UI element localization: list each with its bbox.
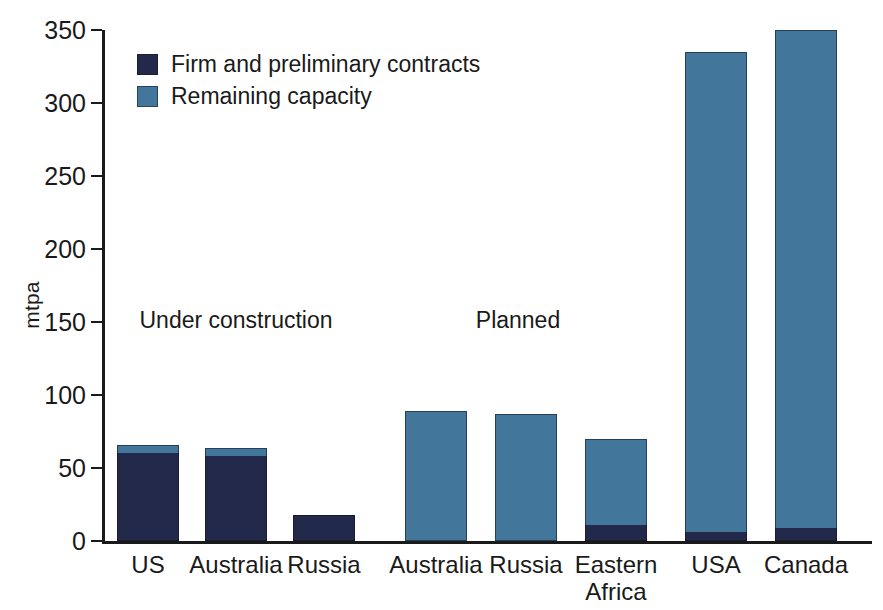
legend-item-remaining: Remaining capacity: [137, 82, 480, 111]
annotation-under-construction: Under construction: [139, 307, 332, 334]
y-tick-mark: [91, 467, 102, 469]
bar-segment-remaining-capacity: [405, 411, 467, 541]
bar-segment-remaining-capacity: [775, 30, 837, 528]
y-axis-label: mtpa: [20, 281, 44, 329]
legend-item-firm: Firm and preliminary contracts: [137, 50, 480, 79]
x-tick-label: Eastern Africa: [559, 551, 673, 605]
legend-label-remaining: Remaining capacity: [171, 83, 372, 110]
legend-label-firm: Firm and preliminary contracts: [171, 51, 480, 78]
bar-segment-firm-contracts: [117, 453, 179, 541]
y-tick-label: 300: [44, 89, 86, 118]
x-tick-label: Russia: [267, 551, 381, 578]
firm-swatch-icon: [137, 54, 158, 75]
bar-segment-remaining-capacity: [585, 439, 647, 525]
bar-segment-firm-contracts: [775, 528, 837, 541]
bar-segment-remaining-capacity: [205, 448, 267, 457]
bar-segment-firm-contracts: [293, 515, 355, 541]
bar-russia: [495, 414, 557, 541]
y-tick-label: 0: [72, 527, 86, 556]
y-tick-label: 50: [58, 454, 86, 483]
y-tick-mark: [91, 394, 102, 396]
x-axis-line: [102, 541, 872, 544]
y-tick-mark: [91, 321, 102, 323]
bar-australia: [205, 448, 267, 541]
bar-eastern-africa: [585, 439, 647, 541]
bar-usa: [685, 52, 747, 541]
y-tick-mark: [91, 248, 102, 250]
x-tick-label: Canada: [749, 551, 863, 578]
bar-chart: mtpa 050100150200250300350 USAustraliaRu…: [0, 0, 883, 610]
bar-segment-firm-contracts: [685, 532, 747, 541]
bar-russia: [293, 515, 355, 541]
chart-legend: Firm and preliminary contracts Remaining…: [137, 50, 480, 114]
bar-segment-remaining-capacity: [685, 52, 747, 532]
bar-segment-firm-contracts: [205, 456, 267, 541]
bar-australia: [405, 411, 467, 541]
remaining-swatch-icon: [137, 86, 158, 107]
annotation-planned: Planned: [476, 307, 560, 334]
y-tick-mark: [91, 29, 102, 31]
y-tick-label: 200: [44, 235, 86, 264]
bar-segment-remaining-capacity: [117, 445, 179, 454]
y-tick-label: 350: [44, 16, 86, 45]
y-tick-label: 150: [44, 308, 86, 337]
y-tick-label: 100: [44, 381, 86, 410]
bar-canada: [775, 30, 837, 541]
y-tick-label: 250: [44, 162, 86, 191]
bar-segment-firm-contracts: [585, 525, 647, 541]
y-tick-mark: [91, 175, 102, 177]
bar-segment-remaining-capacity: [495, 414, 557, 541]
bar-us: [117, 445, 179, 541]
y-tick-mark: [91, 102, 102, 104]
y-tick-mark: [91, 540, 102, 542]
